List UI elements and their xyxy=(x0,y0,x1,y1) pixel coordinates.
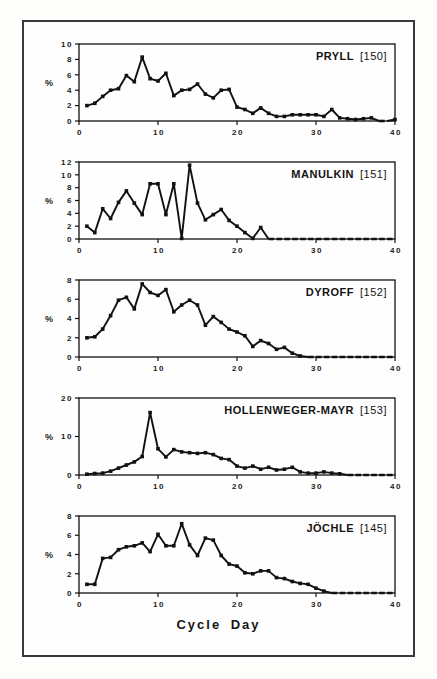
data-point-marker xyxy=(187,451,191,455)
data-point-marker xyxy=(148,182,152,186)
data-point-marker xyxy=(85,224,89,228)
y-tick-label: 10 xyxy=(61,40,73,49)
data-point-marker xyxy=(211,213,215,217)
data-point-marker xyxy=(353,118,357,122)
y-tick-label: 2 xyxy=(67,222,73,231)
data-point-marker xyxy=(219,321,223,325)
data-point-marker xyxy=(172,182,176,186)
chart-canvas-hollenweger-mayr: 01020010203040%HOLLENWEGER-MAYR [153] xyxy=(30,389,408,501)
data-point-marker xyxy=(282,115,286,119)
x-axis-title: Cycle Day xyxy=(24,617,413,632)
data-point-marker xyxy=(203,218,207,222)
chart-dyroff: 02468010203040%DYROFF [152] xyxy=(24,271,413,389)
x-tick-label: 40 xyxy=(390,364,402,373)
data-point-marker xyxy=(337,116,341,120)
x-tick-label: 40 xyxy=(390,246,402,255)
y-tick-label: 4 xyxy=(67,314,73,323)
data-point-marker xyxy=(227,562,231,566)
data-point-marker xyxy=(258,106,262,110)
data-point-marker xyxy=(290,580,294,584)
data-point-marker xyxy=(219,88,223,92)
data-point-marker xyxy=(124,74,128,78)
data-point-marker xyxy=(124,296,128,300)
data-point-marker xyxy=(187,163,191,167)
data-point-marker xyxy=(187,298,191,302)
data-point-marker xyxy=(195,554,199,558)
chart-hollenweger-mayr: 01020010203040%HOLLENWEGER-MAYR [153] xyxy=(24,389,413,507)
data-point-marker xyxy=(140,282,144,286)
data-point-marker xyxy=(251,345,255,349)
y-tick-label: 0 xyxy=(67,589,73,598)
data-point-marker xyxy=(266,112,270,116)
y-tick-label: 0 xyxy=(67,117,73,126)
data-point-marker xyxy=(148,291,152,295)
data-point-marker xyxy=(108,217,112,221)
data-point-marker xyxy=(108,469,112,473)
x-tick-label: 20 xyxy=(232,482,244,491)
data-point-marker xyxy=(219,554,223,558)
data-point-marker xyxy=(306,583,310,587)
data-point-marker xyxy=(298,113,302,117)
data-point-marker xyxy=(235,464,239,468)
data-point-marker xyxy=(164,455,168,459)
x-tick-label: 0 xyxy=(77,246,83,255)
data-point-marker xyxy=(298,470,302,474)
data-point-marker xyxy=(314,113,318,117)
x-tick-label: 10 xyxy=(153,482,165,491)
data-point-marker xyxy=(179,522,183,526)
data-point-marker xyxy=(187,543,191,547)
data-point-marker xyxy=(132,460,136,464)
data-point-marker xyxy=(140,541,144,545)
x-tick-label: 30 xyxy=(311,600,323,609)
data-point-marker xyxy=(179,303,183,307)
chart-canvas-jochle: 02468010203040%JÖCHLE [145] xyxy=(30,507,408,619)
data-point-marker xyxy=(290,466,294,470)
data-point-marker xyxy=(164,72,168,76)
data-point-marker xyxy=(140,213,144,217)
data-point-marker xyxy=(172,94,176,98)
data-point-marker xyxy=(243,334,247,338)
data-point-marker xyxy=(203,451,207,455)
data-point-marker xyxy=(243,231,247,235)
data-point-marker xyxy=(93,335,97,339)
data-point-marker xyxy=(148,411,152,415)
data-point-marker xyxy=(108,88,112,92)
data-point-marker xyxy=(258,339,262,343)
y-tick-label: 2 xyxy=(67,101,73,110)
data-point-marker xyxy=(211,315,215,319)
data-point-marker xyxy=(116,201,120,205)
x-tick-label: 0 xyxy=(77,482,83,491)
data-point-marker xyxy=(235,564,239,568)
data-point-marker xyxy=(124,189,128,193)
chart-title: JÖCHLE [145] xyxy=(306,522,387,534)
data-point-marker xyxy=(93,231,97,235)
data-point-marker xyxy=(85,472,89,476)
y-tick-label: 0 xyxy=(67,353,73,362)
data-point-marker xyxy=(274,348,278,352)
data-point-marker xyxy=(108,314,112,318)
data-point-marker xyxy=(282,577,286,581)
chart-title: HOLLENWEGER-MAYR [153] xyxy=(224,404,387,416)
x-tick-label: 20 xyxy=(232,600,244,609)
series-line xyxy=(86,524,331,593)
data-point-marker xyxy=(258,569,262,573)
data-point-marker xyxy=(93,583,97,587)
data-point-marker xyxy=(124,463,128,467)
data-point-marker xyxy=(100,207,104,211)
data-point-marker xyxy=(330,108,334,112)
data-point-marker xyxy=(172,448,176,452)
chart-title: PRYLL [150] xyxy=(315,50,386,62)
data-point-marker xyxy=(306,471,310,475)
data-point-marker xyxy=(156,182,160,186)
figure-frame: 0246810010203040%PRYLL [150]024681012010… xyxy=(22,20,415,657)
y-axis-label: % xyxy=(45,196,53,206)
data-point-marker xyxy=(322,470,326,474)
y-tick-label: 8 xyxy=(67,55,73,64)
series-line xyxy=(86,284,307,357)
data-point-marker xyxy=(164,288,168,292)
data-point-marker xyxy=(322,115,326,119)
data-point-marker xyxy=(195,201,199,205)
data-point-marker xyxy=(132,201,136,205)
data-point-marker xyxy=(227,327,231,331)
data-point-marker xyxy=(219,208,223,212)
